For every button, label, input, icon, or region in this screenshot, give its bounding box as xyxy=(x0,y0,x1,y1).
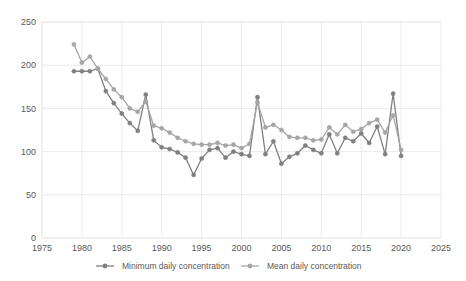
x-tick-label-1990: 1990 xyxy=(152,243,172,253)
data-point xyxy=(136,129,140,133)
data-point xyxy=(295,136,299,140)
legend-marker-dot xyxy=(103,264,108,269)
data-point xyxy=(231,143,235,147)
data-point xyxy=(88,54,92,58)
data-point xyxy=(311,138,315,142)
y-tick-label-250: 250 xyxy=(21,17,36,27)
data-point xyxy=(88,69,92,73)
data-point xyxy=(399,148,403,152)
data-point xyxy=(327,132,331,136)
data-point xyxy=(263,152,267,156)
data-point xyxy=(231,150,235,154)
data-point xyxy=(152,138,156,142)
data-point xyxy=(359,127,363,131)
data-point xyxy=(128,106,132,110)
x-tick-label-2025: 2025 xyxy=(431,243,451,253)
data-point xyxy=(239,146,243,150)
data-point xyxy=(375,118,379,122)
data-point xyxy=(279,162,283,166)
data-point xyxy=(144,92,148,96)
x-tick-label-1975: 1975 xyxy=(32,243,52,253)
gridlines-group xyxy=(42,22,441,238)
chart-container: 050100150200250 197519801985199019952000… xyxy=(0,0,466,281)
data-point xyxy=(359,131,363,135)
data-point xyxy=(112,87,116,91)
data-point xyxy=(255,100,259,104)
data-point xyxy=(279,128,283,132)
y-tick-label-200: 200 xyxy=(21,60,36,70)
data-point xyxy=(215,146,219,150)
y-tick-label-150: 150 xyxy=(21,104,36,114)
x-tick-label-2005: 2005 xyxy=(271,243,291,253)
y-tick-label-50: 50 xyxy=(26,190,36,200)
data-point xyxy=(255,95,259,99)
data-point xyxy=(391,113,395,117)
data-point xyxy=(303,143,307,147)
data-point xyxy=(303,136,307,140)
data-point xyxy=(287,155,291,159)
x-tick-label-1985: 1985 xyxy=(112,243,132,253)
data-point xyxy=(128,121,132,125)
data-point xyxy=(247,154,251,158)
data-point xyxy=(207,143,211,147)
data-point xyxy=(168,147,172,151)
legend-marker-dot xyxy=(248,264,253,269)
data-point xyxy=(200,143,204,147)
data-point xyxy=(104,77,108,81)
data-point xyxy=(351,130,355,134)
x-tick-label-1980: 1980 xyxy=(72,243,92,253)
data-point xyxy=(343,123,347,127)
data-point xyxy=(96,67,100,71)
data-point xyxy=(72,42,76,46)
data-point xyxy=(343,136,347,140)
data-point xyxy=(375,124,379,128)
data-point xyxy=(215,141,219,145)
series-line xyxy=(74,69,401,175)
data-point xyxy=(112,101,116,105)
data-point xyxy=(383,152,387,156)
data-point xyxy=(104,89,108,93)
y-tick-label-0: 0 xyxy=(31,233,36,243)
x-tick-label-2000: 2000 xyxy=(231,243,251,253)
line-chart: 050100150200250 197519801985199019952000… xyxy=(0,0,466,281)
data-point xyxy=(207,148,211,152)
data-point xyxy=(391,92,395,96)
data-point xyxy=(160,126,164,130)
data-point xyxy=(144,99,148,103)
data-point xyxy=(152,124,156,128)
data-point xyxy=(271,139,275,143)
data-point xyxy=(80,61,84,65)
data-point xyxy=(319,137,323,141)
y-axis-tick-labels: 050100150200250 xyxy=(21,17,36,243)
data-point xyxy=(351,139,355,143)
data-point xyxy=(327,125,331,129)
data-point xyxy=(335,151,339,155)
data-point xyxy=(136,110,140,114)
data-point xyxy=(160,145,164,149)
x-tick-label-1995: 1995 xyxy=(192,243,212,253)
data-point xyxy=(367,121,371,125)
data-point xyxy=(295,151,299,155)
data-point xyxy=(72,69,76,73)
data-point xyxy=(80,69,84,73)
data-point xyxy=(192,173,196,177)
data-point xyxy=(223,156,227,160)
data-point xyxy=(184,139,188,143)
data-point xyxy=(247,142,251,146)
legend-label: Mean daily concentration xyxy=(267,261,362,271)
data-point xyxy=(311,148,315,152)
data-point xyxy=(287,135,291,139)
data-point xyxy=(184,156,188,160)
data-point xyxy=(239,152,243,156)
data-point xyxy=(120,111,124,115)
data-point xyxy=(192,142,196,146)
data-point xyxy=(367,141,371,145)
data-point xyxy=(176,150,180,154)
x-tick-label-2020: 2020 xyxy=(391,243,411,253)
data-point xyxy=(263,125,267,129)
data-point xyxy=(399,154,403,158)
y-tick-label-100: 100 xyxy=(21,147,36,157)
x-tick-label-2015: 2015 xyxy=(351,243,371,253)
data-point xyxy=(223,143,227,147)
data-point xyxy=(383,130,387,134)
